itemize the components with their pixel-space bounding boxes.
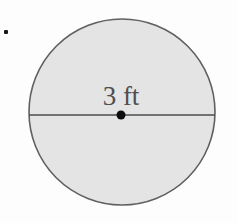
figure-canvas: 3 ft [0,0,237,223]
diameter-label: 3 ft [103,81,140,111]
circle-figure: 3 ft [0,0,237,223]
center-dot [117,111,126,120]
